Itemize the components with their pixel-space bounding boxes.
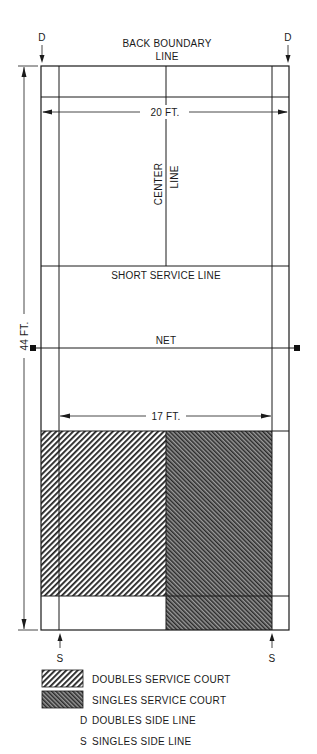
length-label: 44 FT.: [19, 322, 30, 351]
net-post-right: [294, 345, 300, 351]
svg-text:S: S: [269, 653, 276, 664]
legend: DOUBLES SERVICE COURT SINGLES SERVICE CO…: [42, 670, 231, 747]
net-post-left: [30, 345, 36, 351]
short-service-line-label: SHORT SERVICE LINE: [111, 270, 221, 281]
width-doubles-label: 20 FT.: [151, 107, 180, 118]
legend-key-s: S: [80, 736, 87, 747]
back-boundary-label-line2: LINE: [155, 51, 178, 62]
doubles-service-court-area: [41, 431, 166, 596]
legend-swatch-doubles: [42, 670, 83, 687]
legend-key-d: D: [80, 715, 88, 726]
doubles-marker-left: D: [38, 32, 45, 63]
back-boundary-label-line1: BACK BOUNDARY: [122, 38, 211, 49]
center-line-label-2: LINE: [169, 165, 180, 188]
legend-label-doubles-service-court: DOUBLES SERVICE COURT: [92, 674, 231, 685]
singles-marker-left: S: [57, 633, 64, 664]
center-line-label-1: CENTER: [153, 163, 164, 205]
doubles-marker-right: D: [284, 32, 291, 63]
legend-label-doubles-side-line: DOUBLES SIDE LINE: [92, 715, 196, 726]
svg-text:S: S: [57, 653, 64, 664]
legend-label-singles-side-line: SINGLES SIDE LINE: [92, 736, 192, 747]
width-singles-label: 17 FT.: [152, 411, 181, 422]
badminton-court-diagram: D D S S BACK BOUNDARY LINE 20 FT. CENTER…: [0, 0, 317, 754]
svg-text:D: D: [284, 32, 291, 43]
net-label: NET: [156, 335, 177, 346]
singles-service-court-area: [166, 431, 272, 630]
legend-label-singles-service-court: SINGLES SERVICE COURT: [92, 695, 226, 706]
singles-marker-right: S: [269, 633, 276, 664]
legend-swatch-singles: [42, 691, 83, 708]
svg-text:D: D: [38, 32, 45, 43]
